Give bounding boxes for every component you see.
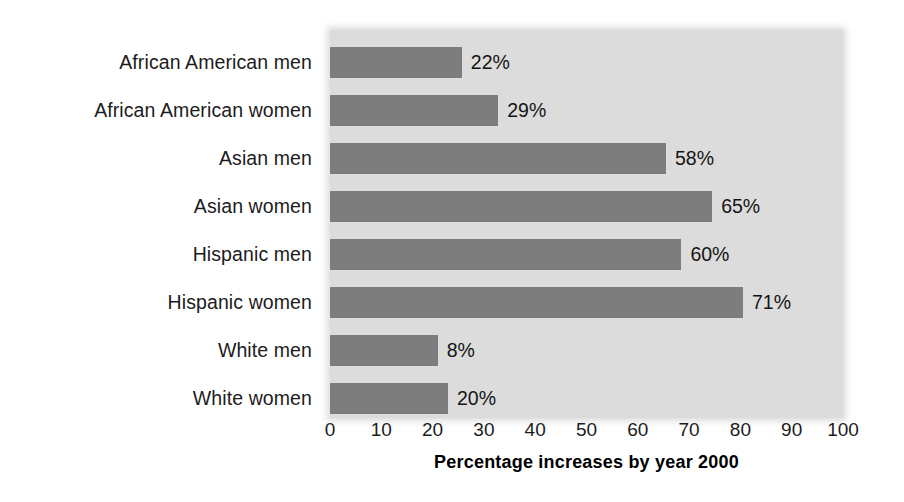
bar-value-label: 29% bbox=[507, 101, 546, 121]
bar bbox=[330, 239, 681, 270]
x-tick-label: 60 bbox=[627, 420, 648, 439]
plot-area: 22%29%58%65%60%71%8%20% bbox=[330, 30, 843, 418]
x-tick-label: 0 bbox=[325, 420, 336, 439]
bar-value-label: 20% bbox=[457, 389, 496, 409]
x-axis: 0102030405060708090100 bbox=[330, 420, 843, 446]
x-tick-label: 80 bbox=[730, 420, 751, 439]
category-label: Asian men bbox=[2, 149, 312, 169]
category-label: African American men bbox=[2, 53, 312, 73]
x-tick-label: 50 bbox=[576, 420, 597, 439]
bar bbox=[330, 143, 666, 174]
bar bbox=[330, 47, 462, 78]
bar bbox=[330, 191, 712, 222]
bar-value-label: 60% bbox=[690, 245, 729, 265]
x-tick-label: 30 bbox=[473, 420, 494, 439]
x-tick-label: 90 bbox=[781, 420, 802, 439]
bar-value-label: 58% bbox=[675, 149, 714, 169]
x-tick-label: 10 bbox=[371, 420, 392, 439]
category-label: White women bbox=[2, 389, 312, 409]
bar bbox=[330, 383, 448, 414]
category-label: African American women bbox=[2, 101, 312, 121]
bar bbox=[330, 287, 743, 318]
bar-chart: African American menAfrican American wom… bbox=[0, 0, 904, 502]
category-label: White men bbox=[2, 341, 312, 361]
bar bbox=[330, 335, 438, 366]
bar-value-label: 65% bbox=[721, 197, 760, 217]
category-label: Asian women bbox=[2, 197, 312, 217]
category-label: Hispanic men bbox=[2, 245, 312, 265]
bar bbox=[330, 95, 498, 126]
bar-value-label: 8% bbox=[447, 341, 475, 361]
bar-value-label: 22% bbox=[471, 53, 510, 73]
category-label: Hispanic women bbox=[2, 293, 312, 313]
x-tick-label: 20 bbox=[422, 420, 443, 439]
x-tick-label: 70 bbox=[679, 420, 700, 439]
x-tick-label: 100 bbox=[827, 420, 859, 439]
category-axis: African American menAfrican American wom… bbox=[0, 30, 318, 418]
x-axis-title: Percentage increases by year 2000 bbox=[330, 452, 843, 473]
x-tick-label: 40 bbox=[525, 420, 546, 439]
bar-value-label: 71% bbox=[752, 293, 791, 313]
